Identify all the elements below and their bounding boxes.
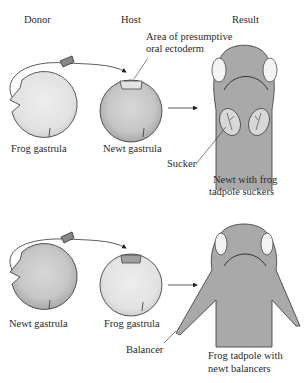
label-sucker: Sucker [167,158,196,170]
host-newt-gastrula [100,80,162,142]
header-donor: Donor [24,14,51,26]
tissue-piece-bottom [61,232,74,243]
label-newt-gastrula-bottom: Newt gastrula [9,318,68,330]
host-frog-gastrula [100,254,162,316]
label-result-top-2: tadpole suckers [209,186,274,198]
tissue-piece-top [60,56,74,67]
label-result-bottom-2: newt balancers [208,363,271,375]
label-area-oral-ectoderm-2: oral ectoderm [146,43,204,55]
newt-head-with-suckers [212,45,277,190]
header-host: Host [121,14,141,26]
label-result-top-1: Newt with frog [213,174,277,186]
label-balancer: Balancer [126,344,163,356]
label-area-oral-ectoderm-1: Area of presumptive [146,31,232,43]
header-result: Result [232,14,259,26]
donor-frog-gastrula [10,71,77,137]
label-frog-gastrula-top: Frog gastrula [11,143,67,155]
label-frog-gastrula-bottom: Frog gastrula [104,318,160,330]
label-result-bottom-1: Frog tadpole with [208,350,283,362]
frog-tadpole-with-balancers [176,224,300,347]
label-newt-gastrula-top: Newt gastrula [103,143,162,155]
donor-newt-gastrula [10,243,77,309]
